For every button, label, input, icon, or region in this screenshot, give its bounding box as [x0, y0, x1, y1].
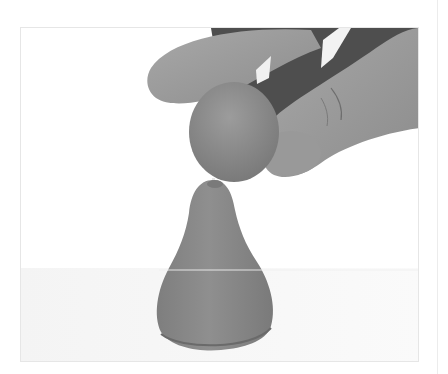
pear-stem-hole [207, 180, 223, 188]
hand [147, 28, 419, 177]
photo-frame [20, 27, 419, 362]
page-edge-line [437, 0, 438, 374]
clay-pear [157, 180, 273, 350]
photo-illustration [21, 28, 419, 362]
clay-ball [189, 82, 279, 182]
